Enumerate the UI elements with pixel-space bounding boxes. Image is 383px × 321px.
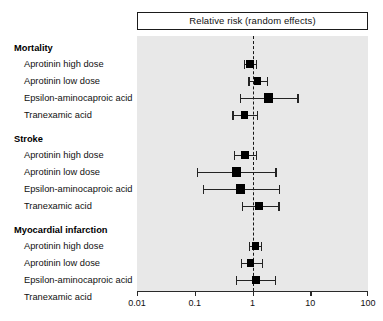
row-label: Aprotinin low dose — [24, 166, 100, 178]
point-estimate-marker — [246, 60, 254, 68]
group-heading-mortality: Mortality — [14, 42, 53, 54]
confidence-interval-cap — [197, 168, 198, 177]
point-estimate-marker — [247, 259, 255, 267]
point-estimate-marker — [252, 276, 260, 284]
page-title: Relative risk (random effects) — [189, 16, 315, 26]
confidence-interval-cap — [267, 77, 268, 86]
axis-tick — [195, 291, 196, 296]
row-label: Tranexamic acid — [24, 291, 92, 303]
confidence-interval-cap — [236, 276, 237, 285]
forest-plot-figure: Relative risk (random effects) Mortality… — [0, 0, 383, 321]
axis-tick — [367, 291, 368, 296]
forest-row — [137, 74, 368, 88]
group-heading-stroke: Stroke — [14, 133, 43, 145]
confidence-interval-cap — [257, 111, 258, 120]
confidence-interval-cap — [256, 151, 257, 160]
point-estimate-marker — [264, 93, 274, 103]
forest-row — [137, 108, 368, 122]
forest-row — [137, 199, 368, 213]
axis-tick-label: 1 — [250, 298, 255, 308]
point-estimate-marker — [255, 202, 263, 210]
confidence-interval-cap — [275, 276, 276, 285]
point-estimate-marker — [252, 242, 260, 250]
chart-title-box: Relative risk (random effects) — [137, 12, 368, 30]
point-estimate-marker — [241, 111, 249, 119]
axis-tick-label: 0.01 — [128, 298, 146, 308]
forest-row — [137, 165, 368, 179]
confidence-interval-cap — [275, 168, 276, 177]
confidence-interval-cap — [240, 94, 241, 103]
confidence-interval-cap — [256, 60, 257, 69]
group-heading-myocardial-infarction: Myocardial infarction — [14, 224, 108, 236]
axis-tick — [310, 291, 311, 296]
row-label: Tranexamic acid — [24, 200, 92, 212]
confidence-interval-cap — [242, 202, 243, 211]
forest-row — [137, 57, 368, 71]
axis-tick — [253, 291, 254, 296]
row-label: Epsilon-aminocaproic acid — [24, 92, 133, 104]
forest-row — [137, 239, 368, 253]
forest-row — [137, 256, 368, 270]
confidence-interval-cap — [297, 94, 298, 103]
confidence-interval-cap — [261, 242, 262, 251]
row-label-column: MortalityAprotinin high doseAprotinin lo… — [0, 36, 137, 291]
point-estimate-marker — [254, 77, 262, 85]
confidence-interval-cap — [278, 202, 279, 211]
forest-row — [137, 273, 368, 287]
confidence-interval-cap — [248, 77, 249, 86]
confidence-interval-cap — [241, 259, 242, 268]
row-label: Epsilon-aminocaproic acid — [24, 183, 133, 195]
row-label: Tranexamic acid — [24, 109, 92, 121]
confidence-interval-cap — [249, 242, 250, 251]
confidence-interval-cap — [234, 151, 235, 160]
point-estimate-marker — [232, 167, 242, 177]
axis-tick-label: 100 — [360, 298, 375, 308]
row-label: Aprotinin high dose — [24, 58, 104, 70]
point-estimate-marker — [241, 151, 249, 159]
row-label: Aprotinin low dose — [24, 75, 100, 87]
row-label: Epsilon-aminocaproic acid — [24, 274, 133, 286]
row-label: Aprotinin high dose — [24, 149, 104, 161]
confidence-interval-cap — [203, 185, 204, 194]
axis-tick — [137, 291, 138, 296]
forest-row — [137, 182, 368, 196]
x-axis: 0.010.1110100 — [137, 291, 368, 321]
row-label: Aprotinin high dose — [24, 240, 104, 252]
forest-row — [137, 91, 368, 105]
confidence-interval-cap — [232, 111, 233, 120]
row-label: Aprotinin low dose — [24, 257, 100, 269]
axis-tick-label: 10 — [305, 298, 315, 308]
point-estimate-marker — [236, 184, 246, 194]
plot-area — [137, 36, 368, 291]
confidence-interval-cap — [262, 259, 263, 268]
axis-tick-label: 0.1 — [188, 298, 201, 308]
forest-row — [137, 148, 368, 162]
confidence-interval-cap — [279, 185, 280, 194]
